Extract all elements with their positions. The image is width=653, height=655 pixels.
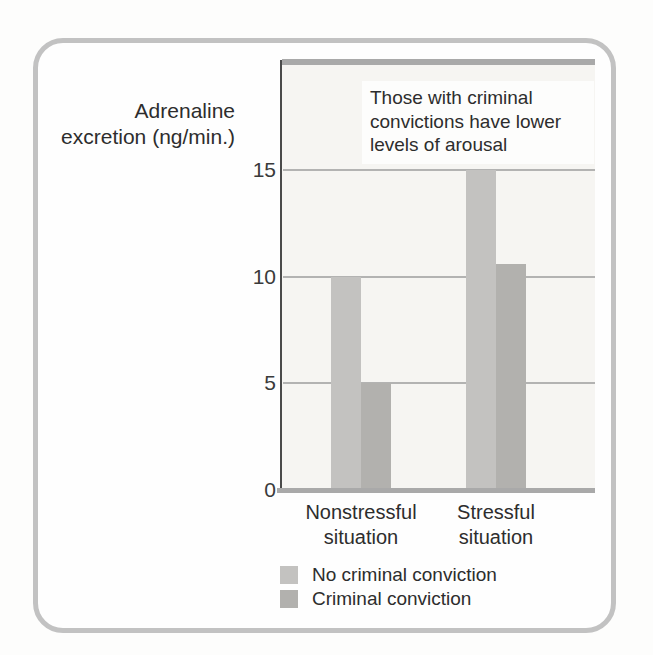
plot-top-border xyxy=(282,59,595,65)
gridline-5 xyxy=(283,382,595,384)
gridline-15 xyxy=(283,169,595,171)
annotation-box: Those with criminal convictions have low… xyxy=(362,81,594,164)
bar-no-criminal-conviction-0 xyxy=(331,277,361,491)
category-label-0: Nonstressful situation xyxy=(291,500,431,550)
y-axis xyxy=(280,60,282,492)
bar-criminal-conviction-1 xyxy=(496,264,526,490)
category-label-1: Stressful situation xyxy=(426,500,566,550)
gridline-10 xyxy=(283,276,595,278)
legend-swatch-icon xyxy=(280,566,298,584)
figure-panel: Adrenaline excretion (ng/min.) Those wit… xyxy=(0,0,653,655)
bar-no-criminal-conviction-1 xyxy=(466,170,496,490)
legend-label: Criminal conviction xyxy=(312,588,471,610)
annotation-text: Those with criminal convictions have low… xyxy=(370,86,586,157)
legend-swatch-icon xyxy=(280,590,298,608)
legend-label: No criminal conviction xyxy=(312,564,497,586)
y-tick-10: 10 xyxy=(232,265,276,289)
y-tick-0: 0 xyxy=(232,478,276,502)
y-tick-5: 5 xyxy=(232,371,276,395)
x-axis xyxy=(277,488,595,493)
bar-criminal-conviction-0 xyxy=(361,383,391,490)
y-tick-15: 15 xyxy=(232,158,276,182)
y-axis-label: Adrenaline excretion (ng/min.) xyxy=(35,98,235,151)
